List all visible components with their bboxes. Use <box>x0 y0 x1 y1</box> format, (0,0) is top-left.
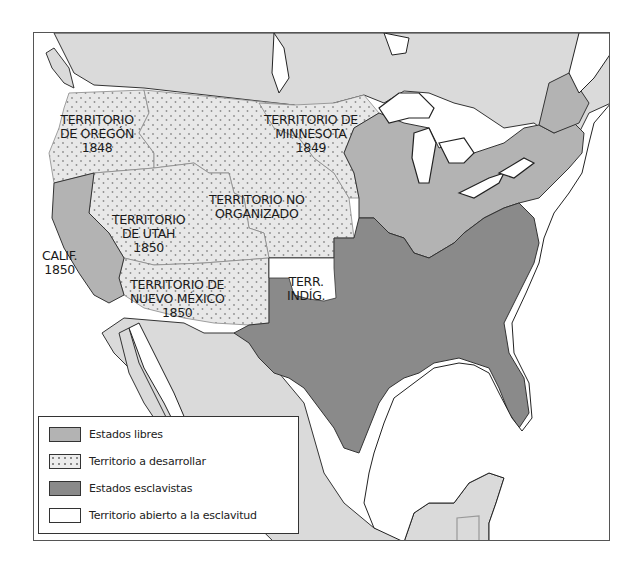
open-to-slavery-swatch <box>49 508 81 523</box>
new-mexico-label-year: 1850 <box>130 306 224 320</box>
territory-dotted-swatch <box>49 454 81 469</box>
new-mexico-label-line2: NUEVO MÉXICO <box>130 292 224 306</box>
legend-item-free-states: Estados libres <box>49 423 298 445</box>
california-label-line1: CALIF. <box>42 249 77 263</box>
unorganized-label: TERRITORIO NO ORGANIZADO <box>209 193 305 221</box>
map-frame: TERRITORIO DE OREGÓN 1848 TERRITORIO DE … <box>33 32 610 541</box>
oregon-label-line1: TERRITORIO <box>60 113 134 127</box>
oregon-label-line2: DE OREGÓN <box>60 127 134 141</box>
oregon-label: TERRITORIO DE OREGÓN 1848 <box>60 113 134 155</box>
oregon-label-year: 1848 <box>60 141 134 155</box>
free-states-swatch <box>49 427 81 442</box>
california-label-year: 1850 <box>42 263 77 277</box>
utah-label-line1: TERRITORIO <box>112 213 185 227</box>
unorganized-label-line1: TERRITORIO NO <box>209 193 305 207</box>
utah-label: TERRITORIO DE UTAH 1850 <box>112 213 185 255</box>
map-legend: Estados libres Territorio a desarrollar … <box>38 416 299 534</box>
indian-territory-label-line2: INDÍG. <box>287 289 325 303</box>
legend-item-open-to-slavery: Territorio abierto a la esclavitud <box>49 504 298 526</box>
new-mexico-label-line1: TERRITORIO DE <box>130 278 224 292</box>
utah-label-year: 1850 <box>112 241 185 255</box>
legend-label: Estados esclavistas <box>89 482 192 495</box>
legend-label: Territorio a desarrollar <box>89 455 206 468</box>
unorganized-label-line2: ORGANIZADO <box>209 207 305 221</box>
california-label: CALIF. 1850 <box>42 249 77 277</box>
slave-states-swatch <box>49 481 81 496</box>
indian-territory-label-line1: TERR. <box>287 275 325 289</box>
legend-label: Territorio abierto a la esclavitud <box>89 509 257 522</box>
minnesota-label: TERRITORIO DE MINNESOTA 1849 <box>264 113 358 155</box>
new-mexico-label: TERRITORIO DE NUEVO MÉXICO 1850 <box>130 278 224 320</box>
utah-label-line2: DE UTAH <box>112 227 185 241</box>
legend-item-territory-to-develop: Territorio a desarrollar <box>49 450 298 472</box>
legend-label: Estados libres <box>89 428 163 441</box>
minnesota-label-line2: MINNESOTA <box>264 127 358 141</box>
minnesota-label-line1: TERRITORIO DE <box>264 113 358 127</box>
minnesota-label-year: 1849 <box>264 141 358 155</box>
indian-territory-label: TERR. INDÍG. <box>287 275 325 303</box>
legend-item-slave-states: Estados esclavistas <box>49 477 298 499</box>
